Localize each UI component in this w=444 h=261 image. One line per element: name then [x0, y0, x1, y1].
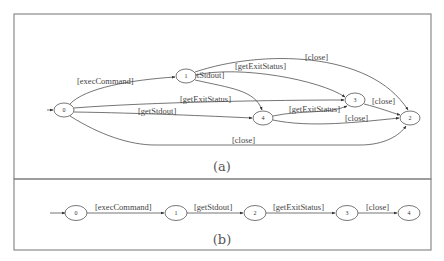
svg-text:4: 4 [262, 115, 265, 121]
caption-b: (b) [213, 232, 231, 247]
svg-text:2: 2 [409, 115, 412, 121]
svg-text:3: 3 [346, 210, 349, 216]
node-a-4: 4 [253, 111, 273, 125]
svg-text:0: 0 [63, 107, 66, 113]
state-machine-figure: [execCommand] [close] [getExitStatus] [g… [0, 0, 444, 261]
svg-text:1: 1 [175, 210, 178, 216]
edge-label-a-0-1: [execCommand] [77, 76, 134, 86]
svg-text:0: 0 [75, 210, 78, 216]
panel-b: [execCommand] [getStdout] [getExitStatus… [50, 202, 420, 247]
node-b-2: 2 [244, 206, 266, 221]
node-a-3: 3 [345, 93, 365, 107]
edge-label-b-2-3: [getExitStatus] [273, 202, 324, 212]
svg-text:1: 1 [185, 73, 188, 79]
node-a-1: 1 [176, 69, 196, 83]
edge-label-a-1-3: [getExitStatus] [235, 61, 286, 71]
edge-label-b-1-2: [getStdout] [194, 202, 232, 212]
panel-a: [execCommand] [close] [getExitStatus] [g… [47, 52, 420, 174]
edge-label-a-4-2: [close] [345, 113, 368, 123]
edge-label-a-1-2: [close] [305, 52, 328, 62]
edge-label-a-0-4: [getStdout] [138, 106, 176, 116]
edge-label-a-3-2: [close] [372, 96, 395, 106]
svg-text:2: 2 [254, 210, 257, 216]
caption-a: (a) [213, 159, 231, 174]
edge-a-4-2 [273, 118, 399, 124]
edge-label-b-3-4: [close] [366, 202, 389, 212]
node-a-2: 2 [400, 111, 420, 125]
edge-label-a-4-3: [getExitStatus] [289, 104, 340, 114]
node-b-0: 0 [65, 206, 87, 221]
edge-label-a-0-3: [getExitStatus] [180, 94, 231, 104]
edge-label-a-0-2: [close] [232, 135, 255, 145]
node-b-3: 3 [336, 206, 358, 221]
node-b-4: 4 [398, 206, 420, 221]
svg-text:3: 3 [354, 97, 357, 103]
svg-text:4: 4 [408, 210, 411, 216]
edge-label-b-0-1: [execCommand] [95, 202, 152, 212]
node-a-0: 0 [54, 103, 74, 117]
node-b-1: 1 [165, 206, 187, 221]
